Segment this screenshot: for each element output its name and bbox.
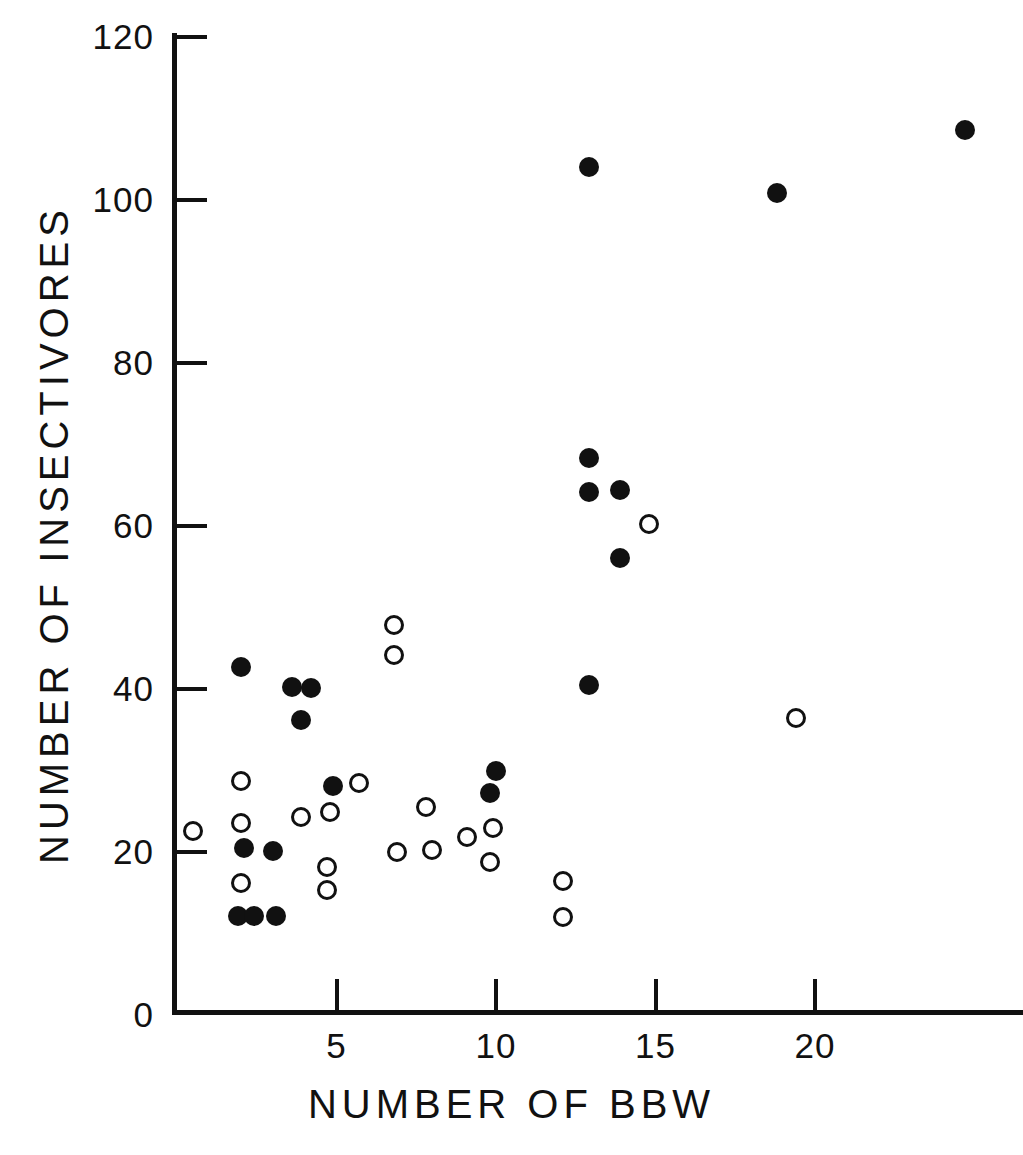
data-point-filled [323,776,343,796]
y-tick-40 [177,687,207,691]
y-tick-label-60: 60 [0,506,154,546]
y-tick-label-40: 40 [0,669,154,709]
data-point-open [416,797,436,817]
x-tick-label-15: 15 [596,1026,716,1066]
data-point-filled [263,841,283,861]
plot-area: 020406080100120 5101520 [0,0,1023,1155]
y-tick-120 [177,35,207,39]
data-point-filled [767,183,787,203]
data-point-open [317,857,337,877]
data-point-open [320,802,340,822]
y-tick-label-120: 120 [0,17,154,57]
scatter-plot-figure: 020406080100120 5101520 NUMBER OF BBW NU… [0,0,1023,1155]
data-point-filled [579,482,599,502]
data-point-open [231,771,251,791]
y-tick-60 [177,524,207,528]
data-point-filled [266,906,286,926]
x-tick-label-20: 20 [755,1026,875,1066]
data-point-filled [955,120,975,140]
data-point-open [639,514,659,534]
data-point-filled [579,157,599,177]
data-point-filled [579,448,599,468]
x-axis-line [172,1010,1023,1015]
data-point-filled [301,678,321,698]
data-point-open [553,871,573,891]
y-axis-title: NUMBER OF INSECTIVORES [32,23,77,1046]
x-tick-label-10: 10 [436,1026,556,1066]
data-point-open [786,708,806,728]
data-point-open [457,827,477,847]
data-point-open [317,880,337,900]
data-point-filled [282,677,302,697]
data-point-filled [486,761,506,781]
y-tick-label-0: 0 [0,995,154,1035]
y-tick-100 [177,198,207,202]
data-point-filled [244,906,264,926]
data-point-open [480,852,500,872]
data-point-filled [234,838,254,858]
data-point-open [183,821,203,841]
y-tick-80 [177,361,207,365]
data-point-filled [610,480,630,500]
data-point-open [483,818,503,838]
data-point-filled [231,657,251,677]
x-tick-5 [335,979,339,1011]
data-point-filled [480,783,500,803]
data-point-filled [610,548,630,568]
x-tick-20 [813,979,817,1011]
y-tick-label-80: 80 [0,343,154,383]
data-point-open [291,807,311,827]
data-point-open [553,907,573,927]
y-tick-20 [177,850,207,854]
x-tick-15 [654,979,658,1011]
data-point-open [231,873,251,893]
x-tick-label-5: 5 [277,1026,397,1066]
data-point-open [231,813,251,833]
data-point-open [384,615,404,635]
y-tick-label-100: 100 [0,180,154,220]
data-point-filled [291,710,311,730]
data-point-open [422,840,442,860]
data-point-open [384,645,404,665]
x-axis-title: NUMBER OF BBW [0,1082,1023,1127]
y-tick-label-20: 20 [0,832,154,872]
x-tick-10 [494,979,498,1011]
data-point-open [349,773,369,793]
data-point-filled [579,675,599,695]
data-point-open [387,842,407,862]
